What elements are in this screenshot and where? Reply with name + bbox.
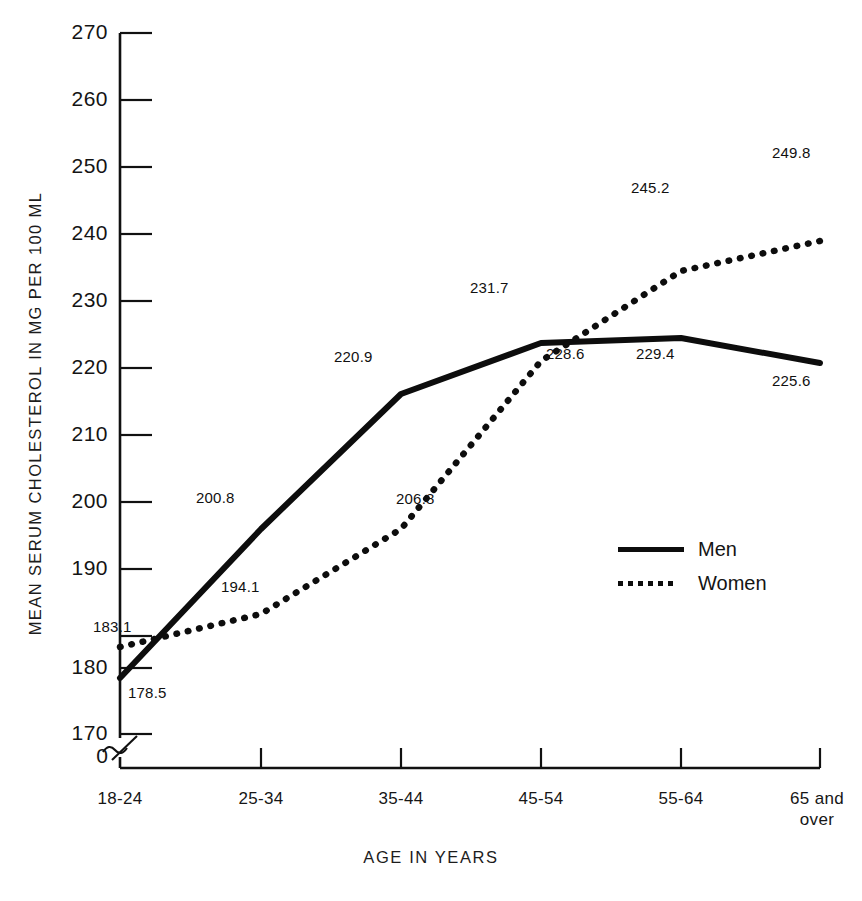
x-tick-line-1: 25-34 — [239, 789, 284, 808]
x-tick-marks — [261, 748, 820, 768]
chart-legend: Men Women — [618, 532, 798, 600]
y-tick-label-180: 180 — [46, 655, 108, 679]
data-label-women-65-over: 249.8 — [772, 144, 811, 161]
data-label-men-65-over: 225.6 — [772, 372, 811, 389]
data-label-women-25-34: 194.1 — [221, 578, 260, 595]
x-tick-label-25-34: 25-34 — [221, 788, 301, 809]
x-axis-title: AGE IN YEARS — [0, 848, 862, 867]
y-axis-title: MEAN SERUM CHOLESTEROL IN MG PER 100 ML — [26, 149, 45, 679]
data-label-men-45-54: 228.6 — [546, 345, 585, 362]
legend-label-men: Men — [698, 538, 737, 561]
y-tick-label-220: 220 — [46, 355, 108, 379]
x-tick-line-1: 45-54 — [519, 789, 564, 808]
data-label-men-25-34: 200.8 — [196, 489, 235, 506]
legend-item-women: Women — [618, 566, 798, 600]
x-tick-label-65-and-over: 65 and over — [775, 788, 859, 831]
chart-canvas — [0, 0, 862, 901]
x-tick-label-18-24: 18-24 — [80, 788, 160, 809]
chart-figure: MEAN SERUM CHOLESTEROL IN MG PER 100 ML … — [0, 0, 862, 901]
legend-solid-line-icon — [618, 542, 684, 556]
y-tick-label-190: 190 — [46, 556, 108, 580]
legend-item-men: Men — [618, 532, 798, 566]
y-axis-origin-label: 0 — [46, 744, 108, 768]
series-line-men — [120, 338, 820, 678]
x-tick-label-55-64: 55-64 — [641, 788, 721, 809]
y-tick-label-230: 230 — [46, 288, 108, 312]
y-tick-label-240: 240 — [46, 221, 108, 245]
x-tick-label-35-44: 35-44 — [361, 788, 441, 809]
axis-break-slash — [112, 736, 137, 760]
data-label-women-45-54: 231.7 — [470, 279, 509, 296]
data-label-women-55-64: 245.2 — [631, 179, 670, 196]
y-tick-label-170: 170 — [46, 721, 108, 745]
x-tick-line-2: over — [775, 809, 859, 830]
x-tick-label-45-54: 45-54 — [501, 788, 581, 809]
legend-label-women: Women — [698, 572, 767, 595]
data-label-men-35-44: 220.9 — [334, 348, 373, 365]
data-label-women-35-44: 206.8 — [396, 490, 435, 507]
x-tick-line-1: 35-44 — [379, 789, 424, 808]
y-tick-label-250: 250 — [46, 154, 108, 178]
x-tick-line-1: 18-24 — [98, 789, 143, 808]
data-label-men-18-24: 178.5 — [128, 684, 167, 701]
y-tick-label-270: 270 — [46, 20, 108, 44]
y-tick-label-200: 200 — [46, 489, 108, 513]
legend-dotted-line-icon — [618, 576, 684, 590]
y-tick-label-210: 210 — [46, 422, 108, 446]
x-tick-line-1: 65 and — [775, 788, 859, 809]
data-label-women-18-24: 183.1 — [93, 618, 132, 635]
data-label-men-55-64: 229.4 — [636, 345, 675, 362]
y-tick-label-260: 260 — [46, 87, 108, 111]
x-tick-line-1: 55-64 — [659, 789, 704, 808]
